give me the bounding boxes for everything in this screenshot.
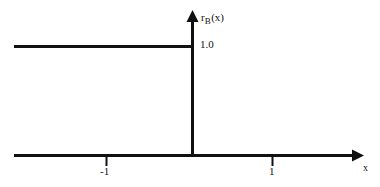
y-axis-value-label: 1.0 [200,39,214,50]
x-axis-arrowhead [352,150,364,162]
plot-canvas [0,0,380,187]
y-axis-arrowhead [187,10,199,22]
y-axis-name-argument: (x) [211,11,224,23]
x-axis-name-label: x [363,163,368,173]
x-tick-label-neg-one: -1 [100,166,109,177]
y-axis-name-label: rB(x) [201,12,224,26]
x-tick-label-pos-one: 1 [269,166,275,177]
step-function-figure: 1.0 rB(x) -1 1 x [0,0,380,187]
